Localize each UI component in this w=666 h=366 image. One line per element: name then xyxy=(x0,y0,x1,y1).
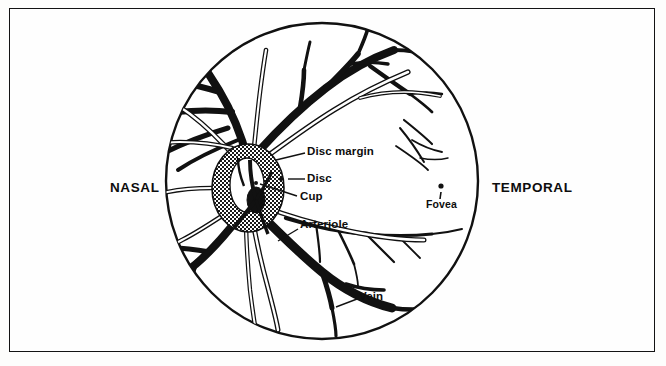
label-cup: Cup xyxy=(300,190,323,202)
cup-dot-marker xyxy=(254,181,258,185)
fovea-dot-marker xyxy=(438,183,443,188)
label-temporal: TEMPORAL xyxy=(492,180,573,195)
label-disc-margin: Disc margin xyxy=(307,145,374,157)
label-fovea: Fovea xyxy=(426,198,457,210)
label-arteriole: Arteriole xyxy=(300,218,348,230)
label-nasal: NASAL xyxy=(110,180,160,195)
label-vein: Vein xyxy=(359,290,383,302)
disc-dot-marker xyxy=(279,177,283,181)
label-disc: Disc xyxy=(307,172,332,184)
